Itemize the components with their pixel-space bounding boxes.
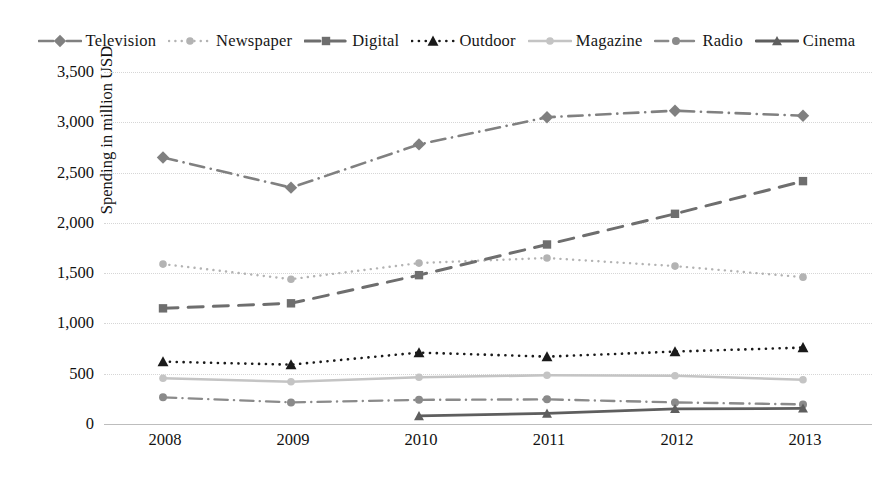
data-point — [287, 275, 295, 283]
data-point — [287, 378, 295, 386]
x-axis-tick-label: 2010 — [405, 430, 438, 450]
data-point — [415, 271, 423, 279]
series-radio — [159, 393, 807, 408]
series-line — [163, 258, 803, 279]
data-point — [797, 110, 809, 122]
data-point — [669, 105, 681, 117]
data-point — [287, 299, 295, 307]
x-axis-tick-label: 2013 — [789, 430, 822, 450]
data-point — [799, 273, 807, 281]
series-magazine — [159, 371, 807, 385]
x-axis-tick-label: 2011 — [533, 430, 565, 450]
data-point — [542, 351, 553, 361]
data-point — [799, 376, 807, 384]
data-point — [543, 395, 551, 403]
series-line — [163, 397, 803, 404]
x-axis-tick-label: 2008 — [149, 430, 182, 450]
series-newspaper — [159, 254, 807, 283]
series-cinema — [414, 403, 808, 420]
data-point — [415, 396, 423, 404]
x-axis-tick-label: 2009 — [277, 430, 310, 450]
data-point — [543, 240, 551, 248]
data-point — [415, 373, 423, 381]
series-digital — [159, 177, 807, 313]
series-television — [157, 105, 809, 194]
data-point — [670, 346, 681, 356]
data-point — [413, 138, 425, 150]
data-point — [415, 259, 423, 267]
series-line — [163, 375, 803, 382]
series-layer — [0, 0, 893, 479]
data-point — [671, 372, 679, 380]
data-point — [158, 356, 169, 366]
data-point — [159, 304, 167, 312]
series-outdoor — [158, 342, 809, 369]
data-point — [159, 260, 167, 268]
x-axis-tick-labels: 200820092010201120122013 — [104, 430, 872, 458]
data-point — [543, 371, 551, 379]
data-point — [285, 181, 297, 193]
series-line — [163, 348, 803, 365]
data-point — [157, 151, 169, 163]
series-line — [419, 408, 803, 416]
data-point — [159, 374, 167, 382]
series-line — [163, 181, 803, 308]
data-point — [543, 254, 551, 262]
chart-container: TelevisionNewspaperDigitalOutdoorMagazin… — [0, 0, 893, 479]
x-axis-tick-label: 2012 — [661, 430, 694, 450]
data-point — [671, 210, 679, 218]
data-point — [799, 177, 807, 185]
data-point — [671, 262, 679, 270]
data-point — [287, 398, 295, 406]
data-point — [159, 393, 167, 401]
series-line — [163, 111, 803, 188]
data-point — [541, 111, 553, 123]
